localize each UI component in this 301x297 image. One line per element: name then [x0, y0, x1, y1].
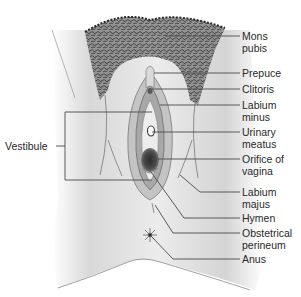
- label-urinary-meatus: Urinary meatus: [242, 126, 276, 150]
- urinary-meatus-shape: [148, 126, 155, 136]
- label-obstetrical-perineum: Obstetrical perineum: [242, 227, 292, 251]
- label-mons-pubis: Mons pubis: [242, 30, 268, 54]
- prepuce-shape: [146, 66, 154, 88]
- label-hymen: Hymen: [242, 212, 275, 224]
- label-labium-minus: Labium minus: [242, 99, 276, 123]
- label-labium-majus: Labium majus: [242, 186, 276, 210]
- label-orifice-of-vagina: Orifice of vagina: [242, 153, 284, 177]
- label-prepuce: Prepuce: [242, 67, 281, 79]
- label-vestibule: Vestibule: [5, 140, 48, 152]
- anatomy-diagram: Vestibule Mons pubis Prepuce Clitoris La…: [0, 0, 301, 297]
- label-clitoris: Clitoris: [242, 83, 274, 95]
- vaginal-orifice-shape: [141, 148, 159, 172]
- label-anus: Anus: [242, 253, 266, 265]
- clitoris-shape: [148, 88, 153, 94]
